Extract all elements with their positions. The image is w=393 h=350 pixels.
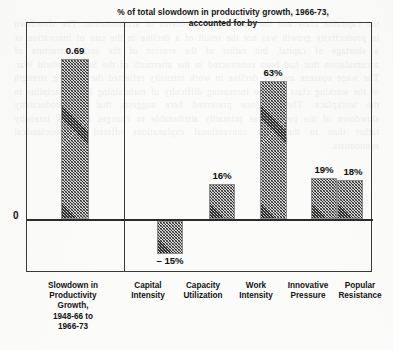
- bar-label-capacity-utilization: 16%: [197, 170, 247, 181]
- bar-innovative-pressure: [311, 178, 337, 219]
- axis-zero-label: 0: [13, 210, 19, 221]
- bar-label-slowdown-productivity: 0.69: [51, 45, 99, 56]
- category-label-capital-intensity: Capital Intensity: [120, 281, 176, 301]
- bar-work-intensity: [260, 81, 287, 219]
- category-label-popular-resistance: Popular Resistance: [330, 281, 390, 301]
- bar-capital-intensity: [157, 221, 183, 254]
- right-panel-header-line-1: % of total slowdown in productivity grow…: [104, 7, 342, 18]
- bar-popular-resistance: [337, 180, 363, 219]
- zero-axis-line: [27, 219, 373, 221]
- chart-frame: 0.69 – 15% 16% 63% 19% 18%: [26, 22, 372, 272]
- bar-label-capital-intensity: – 15%: [145, 255, 195, 266]
- bar-label-work-intensity: 63%: [248, 67, 298, 78]
- scanned-page: the capitalist class and the state to th…: [0, 0, 393, 350]
- category-label-work-intensity: Work Intensity: [229, 281, 283, 301]
- category-label-slowdown-productivity: Slowdown in Productivity Growth, 1948-66…: [28, 281, 118, 332]
- bar-label-popular-resistance: 18%: [328, 166, 378, 177]
- bar-slowdown-productivity: [61, 59, 89, 219]
- bar-capacity-utilization: [209, 184, 235, 219]
- panel-divider: [124, 23, 125, 271]
- category-label-capacity-utilization: Capacity Utilization: [173, 281, 233, 301]
- category-label-innovative-pressure: Innovative Pressure: [278, 281, 338, 301]
